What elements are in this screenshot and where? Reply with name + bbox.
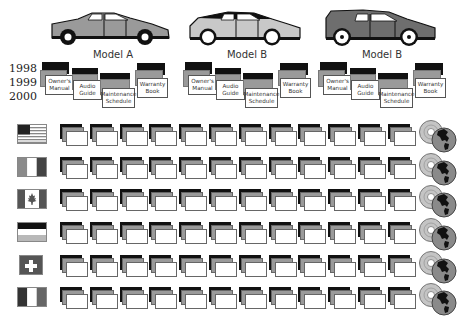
document-stack-icon	[209, 222, 237, 244]
document-stack-icon	[239, 157, 267, 179]
document-stack-icon	[90, 124, 118, 146]
document-stack-icon	[269, 157, 297, 179]
document-stack-icon	[90, 157, 118, 179]
document-stack-icon	[388, 189, 416, 211]
document-stack-icon	[328, 189, 356, 211]
document-stack-icon	[358, 287, 386, 309]
document-stack-icon	[388, 287, 416, 309]
document-stack-icon	[239, 222, 267, 244]
document-stack-icon	[388, 124, 416, 146]
car-model-b-icon	[188, 10, 303, 46]
document-stack-icon	[269, 222, 297, 244]
document-stack-icon	[269, 124, 297, 146]
document-stack-icon	[90, 287, 118, 309]
country-row-france	[0, 286, 471, 316]
model-a-label: Model A	[68, 49, 158, 60]
document-stack-icon	[209, 287, 237, 309]
country-row-germany	[0, 221, 471, 251]
germany-flag-icon	[17, 222, 47, 242]
document-stack-icon	[328, 124, 356, 146]
canada-flag-icon	[17, 189, 47, 209]
country-row-switzerland	[0, 254, 471, 284]
document-stack-icon	[120, 189, 148, 211]
document-stack-icon	[358, 157, 386, 179]
country-row-canada	[0, 188, 471, 218]
document-stack-icon	[149, 124, 177, 146]
document-stack-icon	[149, 157, 177, 179]
document-stack-icon	[120, 124, 148, 146]
cd-globe-icon	[418, 250, 466, 282]
document-stack-icon	[149, 222, 177, 244]
country-row-usa	[0, 123, 471, 153]
document-stack-icon	[179, 157, 207, 179]
document-stack-icon	[269, 189, 297, 211]
document-stack-icon	[239, 124, 267, 146]
document-stack-icon	[120, 255, 148, 277]
document-group-model-b: Owner'sManual AudioGuide MaintenanceSche…	[183, 60, 313, 110]
france-flag-icon	[17, 287, 47, 307]
document-stack-icon	[388, 222, 416, 244]
document-stack-icon	[358, 189, 386, 211]
document-stack-icon	[90, 189, 118, 211]
document-stack-icon	[60, 124, 88, 146]
us-flag-icon	[17, 124, 47, 144]
document-stack-icon	[358, 222, 386, 244]
year-list: 1998 1999 2000	[9, 62, 37, 104]
document-stack-icon	[239, 255, 267, 277]
switzerland-flag-icon	[19, 255, 43, 275]
document-stack-icon	[358, 255, 386, 277]
document-stack-icon	[209, 157, 237, 179]
model-b-label: Model B	[202, 49, 292, 60]
document-stack-icon	[328, 157, 356, 179]
document-stack-icon	[120, 222, 148, 244]
document-stack-icon	[298, 189, 326, 211]
year-2000: 2000	[9, 90, 37, 104]
document-group-model-b-wagon: Owner'sManual AudioGuide MaintenanceSche…	[318, 60, 448, 110]
country-row-italy	[0, 156, 471, 186]
document-stack-icon	[90, 222, 118, 244]
document-stack-icon	[149, 189, 177, 211]
document-stack-icon	[60, 255, 88, 277]
document-stack-icon	[388, 255, 416, 277]
cd-globe-icon	[418, 152, 466, 184]
italy-flag-icon	[17, 157, 47, 177]
document-stack-icon	[60, 157, 88, 179]
model-b-wagon-label: Model B	[337, 49, 427, 60]
document-stack-icon	[269, 287, 297, 309]
document-stack-icon	[179, 255, 207, 277]
document-stack-icon	[328, 255, 356, 277]
document-stack-icon	[90, 255, 118, 277]
car-model-a-icon	[48, 10, 173, 46]
cd-globe-icon	[418, 184, 466, 216]
document-stack-icon	[328, 287, 356, 309]
document-stack-icon	[239, 287, 267, 309]
document-stack-icon	[149, 287, 177, 309]
document-stack-icon	[298, 255, 326, 277]
document-stack-icon	[209, 124, 237, 146]
cd-globe-icon	[418, 282, 466, 314]
cd-globe-icon	[418, 119, 466, 151]
document-stack-icon	[269, 255, 297, 277]
document-stack-icon	[388, 157, 416, 179]
document-stack-icon	[60, 222, 88, 244]
document-stack-icon	[209, 189, 237, 211]
document-stack-icon	[298, 157, 326, 179]
cd-globe-icon	[418, 217, 466, 249]
document-stack-icon	[358, 124, 386, 146]
document-stack-icon	[179, 222, 207, 244]
document-stack-icon	[328, 222, 356, 244]
document-stack-icon	[179, 189, 207, 211]
year-1999: 1999	[9, 76, 37, 90]
document-stack-icon	[298, 222, 326, 244]
document-stack-icon	[120, 157, 148, 179]
document-stack-icon	[60, 287, 88, 309]
car-model-b-wagon-icon	[323, 8, 438, 48]
document-stack-icon	[120, 287, 148, 309]
document-group-model-a: Owner'sManual AudioGuide MaintenanceSche…	[40, 60, 170, 110]
document-stack-icon	[149, 255, 177, 277]
document-stack-icon	[239, 189, 267, 211]
document-stack-icon	[209, 255, 237, 277]
document-stack-icon	[179, 124, 207, 146]
document-stack-icon	[298, 124, 326, 146]
document-stack-icon	[179, 287, 207, 309]
